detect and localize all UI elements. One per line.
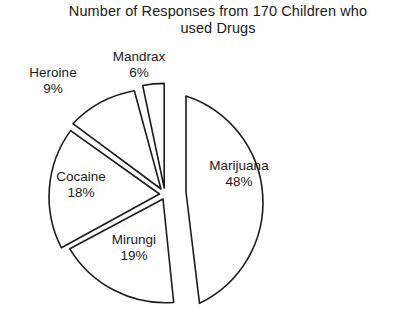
pie-label-marijuana-name: Marijuana <box>209 158 268 173</box>
pie-label-heroine: Heroine 9% <box>8 65 98 96</box>
pie-label-cocaine-percent: 18% <box>38 185 124 201</box>
pie-label-cocaine: Cocaine 18% <box>38 169 124 200</box>
pie-label-mirungi: Mirungi 19% <box>94 232 174 263</box>
pie-chart-figure: Number of Responses from 170 Children wh… <box>0 0 416 321</box>
pie-label-mirungi-percent: 19% <box>94 248 174 264</box>
pie-label-marijuana-percent: 48% <box>196 174 282 190</box>
pie-label-mandrax-percent: 6% <box>94 65 184 81</box>
pie-label-mandrax: Mandrax 6% <box>94 49 184 80</box>
pie-label-cocaine-name: Cocaine <box>56 169 106 184</box>
pie-label-mirungi-name: Mirungi <box>112 232 156 247</box>
pie-label-mandrax-name: Mandrax <box>113 49 166 64</box>
pie-slice-marijuana[interactable] <box>186 96 263 303</box>
pie-label-heroine-name: Heroine <box>29 65 76 80</box>
pie-label-heroine-percent: 9% <box>8 81 98 97</box>
pie-label-marijuana: Marijuana 48% <box>196 158 282 189</box>
